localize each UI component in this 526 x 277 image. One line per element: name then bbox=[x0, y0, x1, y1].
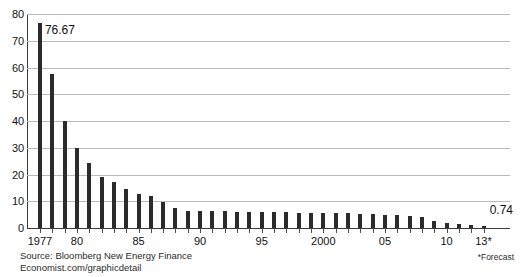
x-axis-tick bbox=[188, 228, 189, 233]
bar bbox=[112, 182, 116, 228]
y-axis-tick-label: 70 bbox=[0, 36, 24, 47]
x-axis-tick bbox=[397, 228, 398, 233]
bar bbox=[297, 213, 301, 229]
x-axis-tick bbox=[447, 228, 448, 233]
x-axis-tick-label: 05 bbox=[379, 235, 391, 247]
bar bbox=[309, 213, 313, 228]
x-axis-tick bbox=[126, 228, 127, 233]
first-bar-value-label: 76.67 bbox=[45, 24, 75, 36]
x-axis-tick bbox=[274, 228, 275, 233]
x-axis-tick bbox=[323, 228, 324, 233]
bar bbox=[284, 212, 288, 228]
x-axis-tick bbox=[151, 228, 152, 233]
gridline bbox=[27, 41, 510, 42]
bar bbox=[346, 213, 350, 228]
bar-chart: 01020304050607080 76.67 0.74 19778085909… bbox=[0, 0, 526, 277]
forecast-footnote: *Forecast bbox=[478, 252, 514, 262]
x-axis-tick-label: 13* bbox=[475, 235, 492, 247]
x-axis-tick bbox=[336, 228, 337, 233]
bar bbox=[137, 194, 141, 229]
y-axis-tick-label: 10 bbox=[0, 196, 24, 207]
bar bbox=[38, 23, 42, 228]
source-attribution: Source: Bloomberg New Energy Finance Eco… bbox=[20, 250, 192, 273]
gridline bbox=[27, 94, 510, 95]
bar bbox=[100, 177, 104, 228]
x-axis-tick bbox=[434, 228, 435, 233]
bar bbox=[198, 211, 202, 228]
gridline bbox=[27, 175, 510, 176]
bar bbox=[371, 214, 375, 228]
bar bbox=[321, 213, 325, 228]
x-axis-tick bbox=[471, 228, 472, 233]
gridline bbox=[27, 121, 510, 122]
x-axis-tick bbox=[102, 228, 103, 233]
x-axis-tick bbox=[311, 228, 312, 233]
bar bbox=[173, 208, 177, 228]
bar bbox=[87, 163, 91, 228]
y-axis-tick-label: 80 bbox=[0, 9, 24, 20]
x-axis-tick bbox=[212, 228, 213, 233]
last-bar-value-label: 0.74 bbox=[490, 204, 513, 216]
x-axis-tick-label: 2000 bbox=[311, 235, 335, 247]
bar bbox=[161, 202, 165, 228]
bar bbox=[432, 221, 436, 228]
x-axis-tick bbox=[484, 228, 485, 233]
bar bbox=[124, 189, 128, 228]
x-axis-tick-label: 1977 bbox=[28, 235, 52, 247]
x-axis-tick bbox=[422, 228, 423, 233]
x-axis-tick bbox=[385, 228, 386, 233]
bar bbox=[149, 196, 153, 228]
y-axis-tick-label: 40 bbox=[0, 116, 24, 127]
x-axis-tick bbox=[225, 228, 226, 233]
x-axis-tick-label: 90 bbox=[194, 235, 206, 247]
x-axis-tick bbox=[89, 228, 90, 233]
x-axis-tick bbox=[175, 228, 176, 233]
bar bbox=[395, 215, 399, 228]
bar bbox=[358, 214, 362, 228]
y-axis-tick-label: 60 bbox=[0, 63, 24, 74]
bar bbox=[63, 121, 67, 228]
bar bbox=[235, 212, 239, 228]
bar bbox=[223, 211, 227, 228]
x-axis-tick bbox=[65, 228, 66, 233]
x-axis-tick bbox=[299, 228, 300, 233]
x-axis-tick bbox=[52, 228, 53, 233]
bar bbox=[272, 212, 276, 228]
bar bbox=[186, 211, 190, 228]
x-axis-tick bbox=[360, 228, 361, 233]
gridline bbox=[27, 68, 510, 69]
x-axis-tick-label: 85 bbox=[132, 235, 144, 247]
y-axis-tick-label: 0 bbox=[0, 223, 24, 234]
x-axis-tick bbox=[348, 228, 349, 233]
bar bbox=[210, 211, 214, 228]
x-axis-tick bbox=[249, 228, 250, 233]
bar bbox=[420, 217, 424, 228]
bar bbox=[334, 213, 338, 228]
plot-area bbox=[27, 14, 510, 228]
x-axis-tick bbox=[262, 228, 263, 233]
bar bbox=[50, 74, 54, 228]
x-axis-tick bbox=[77, 228, 78, 233]
x-axis-tick bbox=[459, 228, 460, 233]
x-axis-tick-label: 10 bbox=[440, 235, 452, 247]
source-line-2: Economist.com/graphicdetail bbox=[20, 262, 192, 274]
gridline bbox=[27, 14, 510, 15]
x-axis-baseline bbox=[27, 228, 510, 229]
x-axis-tick-label: 95 bbox=[256, 235, 268, 247]
gridline bbox=[27, 148, 510, 149]
x-axis-tick bbox=[373, 228, 374, 233]
y-axis-tick-labels: 01020304050607080 bbox=[0, 0, 24, 277]
bar bbox=[260, 212, 264, 228]
x-axis-tick bbox=[237, 228, 238, 233]
x-axis-tick bbox=[286, 228, 287, 233]
y-axis-tick-label: 50 bbox=[0, 89, 24, 100]
x-axis-tick bbox=[200, 228, 201, 233]
x-axis-tick bbox=[163, 228, 164, 233]
x-axis-tick bbox=[114, 228, 115, 233]
source-line-1: Source: Bloomberg New Energy Finance bbox=[20, 250, 192, 262]
bar bbox=[75, 148, 79, 228]
x-axis-tick bbox=[139, 228, 140, 233]
bar bbox=[408, 216, 412, 228]
y-axis-tick-label: 20 bbox=[0, 170, 24, 181]
bar bbox=[383, 215, 387, 228]
